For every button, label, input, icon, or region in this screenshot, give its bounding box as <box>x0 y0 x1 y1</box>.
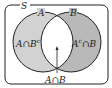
b-only-label: Ac∩B <box>71 37 96 49</box>
set-b-label: B <box>69 8 77 18</box>
set-a-label: A <box>37 8 45 18</box>
universe-label: S <box>21 1 27 11</box>
venn-diagram: S A B A∩Bc Ac∩B A∩B <box>0 0 112 88</box>
intersection-label: A∩B <box>44 75 66 85</box>
